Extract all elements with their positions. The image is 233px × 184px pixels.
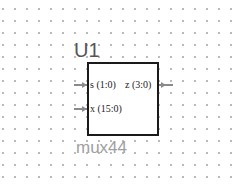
arrow-right-icon xyxy=(161,82,166,88)
pin-z-label: z (3:0) xyxy=(125,80,151,90)
pin-x[interactable] xyxy=(74,108,87,110)
reference-designator: U1 xyxy=(74,40,100,60)
arrow-right-icon xyxy=(82,106,87,112)
component-symbol[interactable] xyxy=(87,62,159,136)
pin-s-label: s (1:0) xyxy=(90,80,116,90)
pin-z[interactable] xyxy=(159,84,173,86)
pin-s[interactable] xyxy=(74,84,87,86)
arrow-right-icon xyxy=(82,82,87,88)
pin-x-label: x (15:0) xyxy=(90,104,122,114)
cell-name: mux44 xyxy=(76,139,127,157)
